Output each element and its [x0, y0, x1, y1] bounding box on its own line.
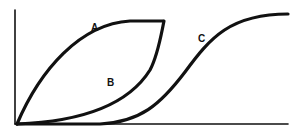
label-c: C: [198, 33, 205, 44]
curves-plot: A B C: [0, 0, 304, 131]
curve-a: [17, 21, 163, 124]
label-a: A: [91, 22, 98, 33]
curve-b: [17, 21, 164, 124]
diagram: A B C: [0, 0, 304, 131]
label-b: B: [107, 77, 114, 88]
curve-c: [17, 14, 288, 124]
